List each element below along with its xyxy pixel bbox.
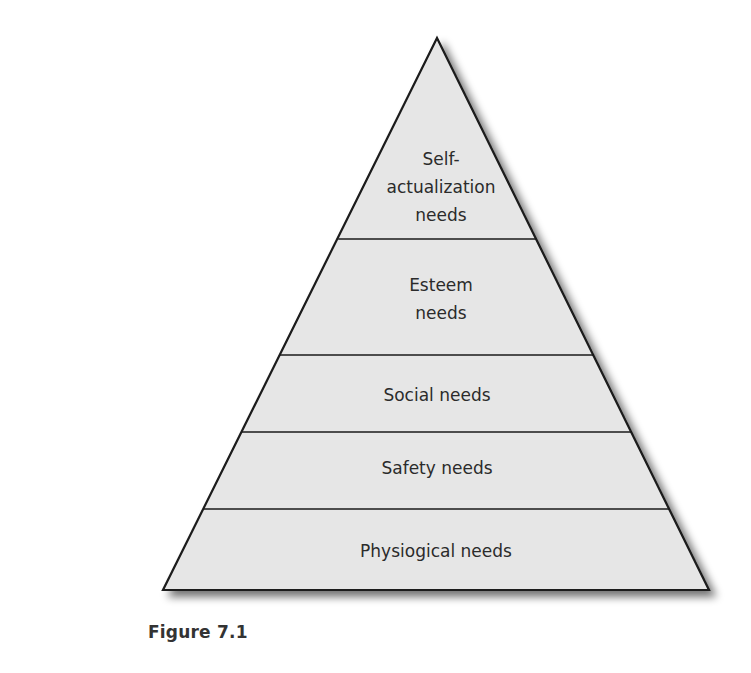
level-label-line: Self- — [422, 149, 459, 169]
level-label-line: actualization — [387, 177, 496, 197]
pyramid-diagram: Self- actualization needs Esteem needs S… — [0, 0, 751, 673]
level-label-line: Social needs — [383, 385, 490, 405]
level-social: Social needs — [383, 385, 490, 405]
level-label-line: needs — [415, 303, 466, 323]
level-label-line: Safety needs — [381, 458, 492, 478]
level-label-line: Physiogical needs — [360, 541, 512, 561]
level-safety: Safety needs — [381, 458, 492, 478]
figure-caption: Figure 7.1 — [148, 622, 248, 642]
level-label-line: Esteem — [409, 275, 473, 295]
level-physiological: Physiogical needs — [360, 541, 512, 561]
level-label-line: needs — [415, 205, 466, 225]
